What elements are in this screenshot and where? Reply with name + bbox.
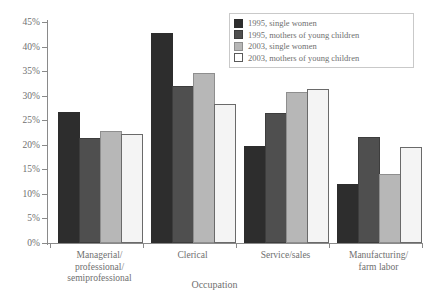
legend-swatch-icon [234, 19, 243, 28]
chart-legend: 1995, single women1995, mothers of young… [229, 13, 414, 68]
x-axis-category-label: Clerical [143, 250, 243, 262]
legend-swatch-icon [234, 53, 243, 62]
bar [214, 104, 236, 243]
x-axis-tick [236, 243, 237, 248]
y-axis-tick [42, 243, 47, 244]
bar [79, 138, 101, 243]
y-axis-tick-label: 45% [2, 17, 40, 27]
y-axis-tick [42, 169, 47, 170]
bar [265, 113, 287, 243]
bar [244, 146, 266, 243]
bar-group [58, 22, 141, 243]
y-axis-tick-label: 0% [2, 238, 40, 248]
bar [379, 174, 401, 243]
y-axis-tick [42, 96, 47, 97]
y-axis-tick [42, 218, 47, 219]
bar [58, 112, 80, 243]
y-axis-tick [42, 71, 47, 72]
y-axis-tick [42, 194, 47, 195]
x-axis-line [47, 243, 423, 244]
bar [307, 89, 329, 243]
legend-item: 1995, mothers of young children [234, 29, 409, 40]
bar [193, 73, 215, 243]
bar [100, 131, 122, 243]
x-axis-title: Occupation [0, 279, 429, 290]
y-axis-tick [42, 47, 47, 48]
y-axis-tick-label: 10% [2, 189, 40, 199]
x-axis-category-label: Service/sales [236, 250, 336, 262]
legend-swatch-icon [234, 42, 243, 51]
y-axis-tick-label: 5% [2, 213, 40, 223]
bar [151, 33, 173, 243]
x-axis-category-label: Manufacturing/farm labor [329, 250, 429, 273]
bar [172, 86, 194, 243]
legend-item-label: 2003, mothers of young children [248, 53, 359, 63]
bar [400, 147, 422, 243]
x-axis-tick [50, 243, 51, 248]
x-axis-tick [143, 243, 144, 248]
bar-chart: 0%5%10%15%20%25%30%35%40%45% Managerial/… [0, 0, 429, 301]
y-axis-tick [42, 22, 47, 23]
legend-item-label: 1995, single women [248, 18, 317, 28]
legend-item-label: 2003, single women [248, 41, 317, 51]
y-axis-tick-label: 15% [2, 164, 40, 174]
bar [358, 137, 380, 243]
y-axis-tick [42, 145, 47, 146]
y-axis-tick-label: 30% [2, 91, 40, 101]
legend-item-label: 1995, mothers of young children [248, 30, 359, 40]
legend-item: 2003, single women [234, 41, 409, 52]
y-axis-tick-label: 40% [2, 42, 40, 52]
x-axis-tick [422, 243, 423, 248]
bar [286, 92, 308, 243]
y-axis-tick-label: 20% [2, 140, 40, 150]
legend-item: 2003, mothers of young children [234, 52, 409, 63]
y-axis-tick-label: 25% [2, 115, 40, 125]
bar-group [151, 22, 234, 243]
legend-item: 1995, single women [234, 18, 409, 29]
bar [337, 184, 359, 243]
y-axis-tick [42, 120, 47, 121]
legend-swatch-icon [234, 30, 243, 39]
bar [121, 134, 143, 243]
y-axis-tick-label: 35% [2, 66, 40, 76]
x-axis-tick [329, 243, 330, 248]
